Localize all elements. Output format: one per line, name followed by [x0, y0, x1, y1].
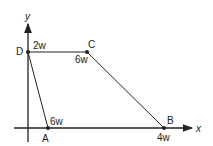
edge-CB [87, 52, 164, 128]
point-C-label: C [88, 39, 95, 50]
x-axis-label: x [195, 123, 202, 134]
y-axis-label: y [24, 11, 31, 22]
point-A-label: A [42, 133, 49, 144]
load-A: 6w [50, 116, 64, 127]
edge-DA [28, 52, 48, 128]
point-D [26, 50, 30, 54]
load-B: 4w [157, 132, 171, 143]
load-D: 2w [33, 40, 47, 51]
point-B-label: B [167, 115, 174, 126]
point-D-label: D [16, 46, 23, 57]
point-B [162, 126, 166, 130]
load-C: 6w [75, 54, 89, 65]
diagram-canvas: y x D C A B 2w 6w 6w 4w [0, 0, 213, 146]
